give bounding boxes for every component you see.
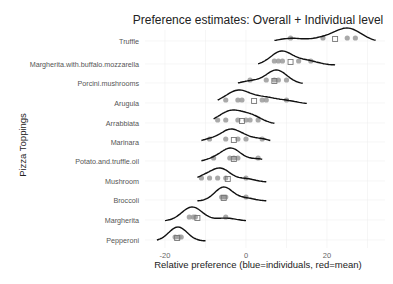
individual-point [207,175,212,180]
y-tick-labels: TruffleMargherita.with.buffalo.mozzarell… [30,37,140,245]
individual-point [243,136,248,141]
y-axis-title: Pizza Toppings [17,113,28,177]
y-tick-label: Truffle [119,37,139,46]
y-tick-label: Broccoli [113,196,139,205]
individual-point [280,58,285,63]
ridgeline-chart: Preference estimates: Overall + Individu… [0,0,393,284]
individual-point [296,58,301,63]
ridge-row [238,70,303,84]
y-tick-label: Mushroom [105,177,139,186]
density-curve [197,187,266,201]
ridge-row [197,168,266,182]
individual-point [215,175,220,180]
ridge-row [274,28,375,42]
y-tick-label: Margherita [105,216,139,225]
ridge-rows [157,28,376,241]
y-tick-label: Arrabbiata [106,119,139,128]
density-curve [258,51,335,65]
y-tick-label: Arugula [114,99,139,108]
y-tick-label: Porcini.mushrooms [77,79,139,88]
x-axis-title: Relative preference (blue=individuals, r… [154,259,362,270]
individual-point [223,117,228,122]
individual-point [345,35,350,40]
chart-title: Preference estimates: Overall + Individu… [133,13,383,27]
y-tick-label: Potato.and.truffle.oil [75,157,139,166]
ridge-row [201,148,262,162]
density-curve [238,70,303,83]
y-tick-label: Margherita.with.buffalo.mozzarella [30,60,139,69]
y-tick-label: Marinara [111,138,139,147]
individual-point [353,35,358,40]
ridge-row [197,187,266,201]
individual-point [223,136,228,141]
ridge-row [218,90,307,104]
individual-point [239,97,244,102]
individual-point [264,77,269,82]
ridge-row [157,227,206,241]
individual-point [223,97,228,102]
ridge-row [214,110,275,124]
ridge-row [258,51,335,65]
individual-point [264,97,269,102]
ridge-row [201,129,270,143]
individual-point [247,117,252,122]
individual-point [284,77,289,82]
y-tick-label: Pepperoni [106,236,139,245]
